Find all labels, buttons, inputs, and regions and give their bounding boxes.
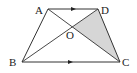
side-ab <box>22 9 48 62</box>
parallel-arrow-icon <box>68 60 73 64</box>
label-a: A <box>35 4 43 16</box>
label-o: O <box>66 29 74 41</box>
trapezoid-diagram: A D O B C <box>0 0 137 73</box>
label-c: C <box>122 56 129 68</box>
label-d: D <box>101 4 109 16</box>
parallel-arrow-icon <box>71 7 76 11</box>
label-b: B <box>9 56 16 68</box>
shaded-triangle-odc <box>72 9 120 62</box>
